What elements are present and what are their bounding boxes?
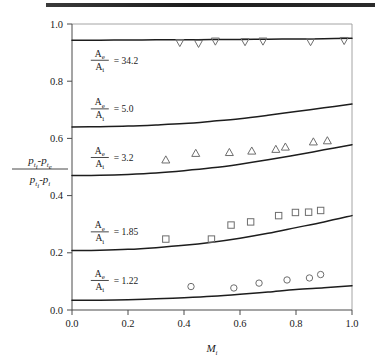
y-tick-label: 0.4 bbox=[50, 190, 64, 201]
chart-curves bbox=[72, 38, 352, 300]
data-marker-square bbox=[275, 212, 281, 218]
data-marker-circle bbox=[231, 285, 237, 291]
data-marker-square bbox=[292, 209, 298, 215]
data-marker-triangle-down bbox=[195, 40, 203, 47]
data-marker-circle bbox=[284, 277, 290, 283]
y-axis-title-numerator: pti-pte bbox=[27, 154, 52, 171]
data-marker-triangle-up bbox=[323, 137, 331, 144]
curve-label-denominator: Ai bbox=[95, 282, 104, 295]
curve-label-value: = 3.2 bbox=[114, 153, 134, 163]
chart-figure: 0.00.20.40.60.81.0 0.00.20.40.60.81.0 Ae… bbox=[0, 8, 375, 359]
curve-label-numerator: Ae bbox=[95, 49, 105, 62]
curve-label-4: AeAi= 1.85 bbox=[91, 220, 139, 246]
x-axis-title: Mi bbox=[205, 342, 217, 357]
data-marker-triangle-up bbox=[225, 148, 233, 155]
curve-label-value: = 5.0 bbox=[114, 104, 134, 114]
curve-label-numerator: Ae bbox=[95, 269, 105, 282]
curve-label-denominator: Ai bbox=[95, 233, 104, 246]
chart-curve-labels: AeAi= 34.2AeAi= 5.0AeAi= 3.2AeAi= 1.85Ae… bbox=[91, 49, 139, 295]
data-marker-square bbox=[163, 236, 169, 242]
y-axis-title-denominator: pti-pi bbox=[29, 173, 51, 190]
chart-svg: 0.00.20.40.60.81.0 0.00.20.40.60.81.0 Ae… bbox=[0, 8, 375, 359]
curve-label-numerator: Ae bbox=[95, 220, 105, 233]
data-marker-circle bbox=[306, 275, 312, 281]
curve-label-3: AeAi= 3.2 bbox=[91, 146, 134, 172]
y-tick-label: 0.8 bbox=[50, 76, 63, 87]
x-tick-label: 0.0 bbox=[65, 318, 78, 329]
y-tick-label: 0.0 bbox=[50, 305, 63, 316]
x-tick-label: 0.2 bbox=[121, 318, 134, 329]
curve-label-numerator: Ae bbox=[95, 97, 105, 110]
x-tick-label: 0.6 bbox=[233, 318, 246, 329]
curve-label-1: AeAi= 34.2 bbox=[91, 49, 139, 75]
curve-label-numerator: Ae bbox=[95, 146, 105, 159]
data-marker-circle bbox=[256, 280, 262, 286]
data-marker-triangle-down bbox=[307, 39, 315, 46]
data-marker-square bbox=[305, 209, 311, 215]
data-marker-triangle-up bbox=[192, 149, 200, 156]
data-marker-square bbox=[247, 219, 253, 225]
curve-label-value: = 1.22 bbox=[114, 276, 139, 286]
x-tick-label: 0.4 bbox=[177, 318, 191, 329]
curve-label-value: = 1.85 bbox=[114, 227, 139, 237]
y-axis-title: pti-pte pti-pi bbox=[12, 154, 68, 190]
curve-5 bbox=[72, 286, 352, 301]
y-tick-label: 1.0 bbox=[50, 19, 63, 30]
x-axis-ticks: 0.00.20.40.60.81.0 bbox=[65, 310, 358, 329]
data-marker-square bbox=[317, 207, 323, 213]
y-tick-label: 0.2 bbox=[50, 247, 63, 258]
data-marker-triangle-down bbox=[176, 39, 184, 46]
data-marker-square bbox=[228, 222, 234, 228]
data-marker-circle bbox=[317, 271, 323, 277]
chart-axes bbox=[72, 24, 352, 310]
y-axis-ticks: 0.00.20.40.60.81.0 bbox=[50, 19, 72, 316]
curve-label-denominator: Ai bbox=[95, 62, 104, 75]
chart-frame bbox=[72, 24, 352, 310]
x-tick-label: 1.0 bbox=[345, 318, 358, 329]
data-marker-triangle-up bbox=[248, 147, 256, 154]
curve-label-2: AeAi= 5.0 bbox=[91, 97, 134, 123]
chart-data-markers bbox=[162, 37, 348, 291]
data-marker-circle bbox=[188, 283, 194, 289]
x-tick-label: 0.8 bbox=[289, 318, 302, 329]
data-marker-triangle-up bbox=[281, 143, 289, 150]
data-marker-triangle-up bbox=[309, 138, 317, 145]
curve-label-denominator: Ai bbox=[95, 110, 104, 123]
y-tick-label: 0.6 bbox=[50, 133, 63, 144]
data-marker-triangle-up bbox=[162, 156, 170, 163]
page-header-rule bbox=[46, 3, 375, 7]
figure-page: 0.00.20.40.60.81.0 0.00.20.40.60.81.0 Ae… bbox=[0, 0, 375, 359]
curve-label-value: = 34.2 bbox=[114, 56, 139, 66]
curve-label-5: AeAi= 1.22 bbox=[91, 269, 139, 295]
data-marker-triangle-up bbox=[272, 145, 280, 152]
curve-label-denominator: Ai bbox=[95, 159, 104, 172]
